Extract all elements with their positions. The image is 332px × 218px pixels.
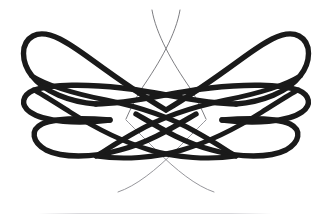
bold-ribbons-group	[24, 34, 309, 158]
faint-horizontal-rule	[38, 213, 272, 214]
artboard	[0, 0, 332, 218]
flourish-ornament	[0, 0, 332, 218]
